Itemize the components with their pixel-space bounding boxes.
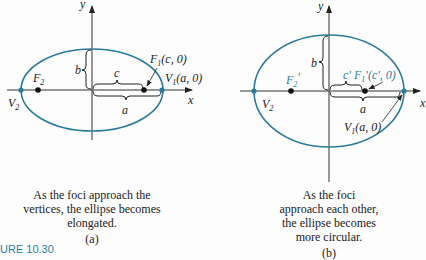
label-c-prime: c'	[343, 68, 351, 82]
pointer-v1	[382, 95, 402, 122]
panel-b: b c' a F2' V2 F1'(c', 0) V1(a, 0) x y	[240, 0, 426, 182]
panel-a: b c a F2 V2 F1(c, 0) V1(a, 0) x y	[7, 0, 202, 140]
caption-b-line: approach each other,	[270, 202, 388, 216]
label-f2-prime: F2'	[285, 70, 300, 89]
label-a: a	[122, 103, 128, 117]
vertex-v2	[18, 87, 23, 92]
caption-a-line: As the foci approach the	[20, 188, 164, 202]
brace-c-prime	[330, 81, 362, 90]
caption-b: As the foci approach each other, the ell…	[270, 188, 388, 260]
label-c: c	[114, 66, 120, 80]
label-v1: V1(a, 0)	[344, 120, 381, 136]
figure-id: URE 10.30	[0, 243, 54, 255]
x-axis-label: x	[187, 93, 194, 107]
pointer-f1-prime	[369, 82, 383, 89]
caption-a-line: vertices, the ellipse becomes	[20, 202, 164, 216]
caption-a: As the foci approach the vertices, the e…	[20, 188, 164, 246]
label-v2: V2	[8, 96, 19, 112]
caption-a-line: elongated.	[20, 216, 164, 230]
label-f1-prime: F1'(c', 0)	[353, 68, 396, 84]
focus-f2	[35, 87, 41, 93]
caption-b-line: more circular.	[270, 230, 388, 244]
brace-b	[319, 36, 328, 90]
y-axis-label: y	[317, 0, 324, 13]
label-b: b	[311, 56, 317, 70]
brace-c	[93, 80, 143, 89]
label-f2: F2	[32, 71, 44, 87]
label-v2: V2	[262, 97, 273, 113]
brace-b	[82, 50, 91, 89]
pointer-f1	[147, 68, 157, 86]
x-axis-label: x	[419, 96, 426, 110]
label-a: a	[360, 102, 366, 116]
caption-b-line: the ellipse becomes	[270, 216, 388, 230]
label-b: b	[75, 63, 81, 77]
vertex-v1	[159, 87, 164, 92]
label-f1: F1(c, 0)	[149, 52, 187, 68]
brace-a	[93, 91, 161, 100]
focus-f1-prime	[362, 88, 368, 94]
focus-f1	[141, 87, 147, 93]
y-axis-label: y	[79, 0, 86, 11]
panel-b-tag: (b)	[270, 246, 388, 260]
vertex-v2	[251, 88, 256, 93]
caption-b-line: As the foci	[270, 188, 388, 202]
focus-f2-prime	[288, 88, 294, 94]
label-v1: V1(a, 0)	[165, 71, 202, 87]
vertex-v1	[401, 88, 406, 93]
